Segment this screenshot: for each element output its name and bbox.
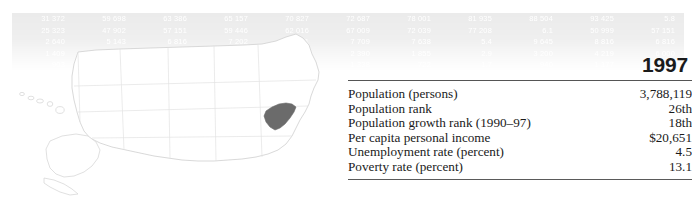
- statistics-row: Population growth rank (1990–97)18th: [348, 116, 692, 131]
- contiguous-us-outline: [72, 34, 319, 161]
- panel-rule-top: [348, 80, 692, 81]
- panel-year-heading: 1997: [348, 52, 692, 77]
- statistics-row-label: Poverty rate (percent): [348, 160, 616, 175]
- watermark-cell: 77 208: [444, 25, 505, 37]
- statistics-row-label: Per capita personal income: [348, 131, 616, 146]
- statistics-row-value: 18th: [616, 116, 692, 131]
- statistics-row-value: 3,788,119: [616, 87, 692, 102]
- statistics-row: Poverty rate (percent)13.1: [348, 160, 692, 175]
- statistics-row-value: $20,651: [616, 131, 692, 146]
- statistics-panel: 1997 Population (persons)3,788,119Popula…: [348, 52, 692, 192]
- watermark-cell: 78 001: [383, 13, 444, 25]
- statistics-row-label: Unemployment rate (percent): [348, 145, 616, 160]
- watermark-cell: 81 935: [444, 13, 505, 25]
- statistics-table: Population (persons)3,788,119Population …: [348, 87, 692, 175]
- watermark-cell: 72 039: [383, 25, 444, 37]
- us-map: [0, 0, 352, 202]
- statistics-row: Population rank26th: [348, 102, 692, 117]
- watermark-cell: 5.8: [627, 13, 684, 25]
- watermark-cell: 9 645: [505, 36, 566, 48]
- statistics-table-body: Population (persons)3,788,119Population …: [348, 87, 692, 175]
- watermark-cell: 6.1: [505, 25, 566, 37]
- alaska-inset: [44, 134, 100, 195]
- watermark-cell: 6 816: [627, 36, 684, 48]
- watermark-cell: 5.4: [444, 36, 505, 48]
- panel-rule-bottom: [348, 179, 692, 180]
- watermark-cell: 7 638: [383, 36, 444, 48]
- watermark-cell: 8 816: [566, 36, 627, 48]
- statistics-row-label: Population (persons): [348, 87, 616, 102]
- watermark-cell: 88 504: [505, 13, 566, 25]
- statistics-row-label: Population rank: [348, 102, 616, 117]
- hawaii-inset: [20, 92, 65, 113]
- statistics-row-value: 13.1: [616, 160, 692, 175]
- statistics-row-label: Population growth rank (1990–97): [348, 116, 616, 131]
- statistics-row: Unemployment rate (percent)4.5: [348, 145, 692, 160]
- statistics-row: Population (persons)3,788,119: [348, 87, 692, 102]
- statistics-row: Per capita personal income$20,651: [348, 131, 692, 146]
- watermark-cell: 50 999: [566, 25, 627, 37]
- statistics-row-value: 26th: [616, 102, 692, 117]
- watermark-cell: 57 151: [627, 25, 684, 37]
- watermark-cell: 93 425: [566, 13, 627, 25]
- statistics-row-value: 4.5: [616, 145, 692, 160]
- fact-panel-page: 31 37259 69863 38665 15770 82772 68778 0…: [0, 0, 692, 202]
